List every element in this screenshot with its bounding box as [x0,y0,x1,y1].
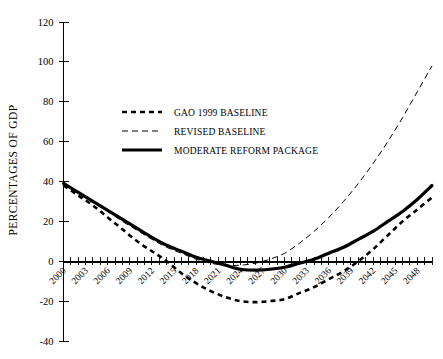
legend-label: MODERATE REFORM PACKAGE [174,146,318,156]
x-tick-label: 2012 [136,265,157,286]
chart-container: PERCENTAGES OF GDP -40-20020406080100120… [0,0,443,359]
y-tick-label: -40 [40,336,54,347]
y-tick-label: 40 [43,176,54,187]
x-tick-label: 2042 [357,265,378,286]
x-tick-label: 2045 [379,265,400,286]
series-line [64,66,433,266]
y-tick-label: 120 [38,17,54,28]
x-tick-label: 2003 [70,265,91,286]
x-tick-label: 2033 [291,265,312,286]
chart-legend: GAO 1999 BASELINEREVISED BASELINEMODERAT… [122,108,318,156]
series-group [64,66,433,302]
x-tick-label: 2021 [202,265,223,286]
y-tick-label: -20 [40,296,54,307]
legend-label: GAO 1999 BASELINE [174,108,268,118]
x-tick-label: 2000 [47,265,68,286]
series-line [64,183,433,270]
legend-label: REVISED BASELINE [174,127,266,137]
y-tick-label: 80 [43,96,54,107]
y-axis-label-group: PERCENTAGES OF GDP [7,105,19,236]
x-tick-label: 2006 [92,265,113,286]
y-tick-label: 20 [43,216,54,227]
x-tick-label: 2009 [114,265,135,286]
y-tick-label: 60 [43,136,54,147]
y-tick-label: 0 [48,256,53,267]
x-tick-label: 2048 [401,265,422,286]
chart-svg: PERCENTAGES OF GDP -40-20020406080100120… [0,0,443,359]
y-tick-label: 100 [38,56,54,67]
y-axis-label: PERCENTAGES OF GDP [7,105,19,236]
